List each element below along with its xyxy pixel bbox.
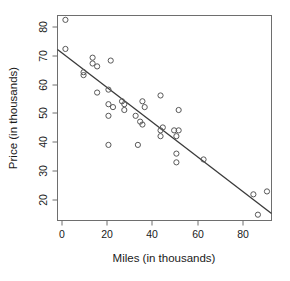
data-point (90, 55, 95, 60)
scatter-plot-figure: 0 20 40 60 80 20 30 40 50 60 70 80 Mil (0, 0, 290, 281)
data-point (63, 46, 68, 51)
plot-frame (58, 16, 272, 221)
x-tick-label: 40 (146, 228, 158, 240)
y-tick-label: 20 (37, 194, 49, 206)
data-point (106, 142, 111, 147)
regression-line (58, 50, 272, 214)
data-point (122, 107, 127, 112)
plot-canvas: 0 20 40 60 80 20 30 40 50 60 70 80 Mil (0, 0, 290, 281)
data-point (140, 99, 145, 104)
y-tick-label: 70 (37, 50, 49, 62)
x-axis-title: Miles (in thousands) (113, 252, 216, 264)
data-point (110, 104, 115, 109)
data-point (251, 192, 256, 197)
x-axis-tick-labels: 0 20 40 60 80 (59, 228, 249, 240)
data-points-group (63, 17, 270, 217)
x-tick-label: 60 (192, 228, 204, 240)
data-point (108, 58, 113, 63)
data-point (174, 160, 179, 165)
y-tick-label: 80 (37, 21, 49, 33)
data-point (63, 17, 68, 22)
x-tick-label: 20 (101, 228, 113, 240)
data-point (255, 212, 260, 217)
x-tick-label: 80 (237, 228, 249, 240)
data-point (174, 134, 179, 139)
y-axis-tick-labels: 20 30 40 50 60 70 80 (37, 21, 49, 206)
data-point (158, 93, 163, 98)
y-tick-label: 50 (37, 107, 49, 119)
data-point (174, 151, 179, 156)
data-point (106, 113, 111, 118)
data-point (95, 64, 100, 69)
data-point (176, 107, 181, 112)
regression-line-path (58, 50, 272, 214)
data-point (133, 113, 138, 118)
y-tick-label: 30 (37, 165, 49, 177)
x-tick-label: 0 (59, 228, 65, 240)
data-point (264, 189, 269, 194)
y-tick-label: 60 (37, 79, 49, 91)
data-point (158, 134, 163, 139)
y-axis-title: Price (in thousands) (7, 67, 19, 169)
y-tick-label: 40 (37, 136, 49, 148)
x-axis-ticks (62, 221, 243, 226)
data-point (142, 104, 147, 109)
data-point (135, 142, 140, 147)
y-axis-ticks (53, 27, 58, 200)
data-point (95, 90, 100, 95)
